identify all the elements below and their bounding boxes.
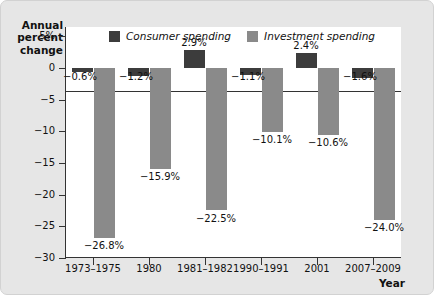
bar-value-label: −0.6%	[63, 71, 97, 82]
legend-label-consumer: Consumer spending	[126, 30, 231, 42]
x-tick-label: 2001	[304, 263, 329, 274]
y-axis-tick-labels: 5%0−5−10−15−20−25−30	[1, 27, 59, 258]
bar-value-label: −1.2%	[119, 71, 153, 82]
y-tick	[59, 163, 66, 164]
y-tick	[59, 100, 66, 101]
bar-value-label: −24.0%	[364, 222, 404, 233]
x-tick-label: 1980	[136, 263, 161, 274]
legend-swatch-investment	[247, 31, 258, 42]
y-tick-label: −30	[34, 253, 55, 263]
bar-value-label: −22.5%	[196, 213, 236, 224]
x-axis-tick-labels: 1973–197519801981–19821990–199120012007–…	[65, 263, 401, 277]
bar	[296, 53, 317, 68]
x-tick-label: 1973–1975	[65, 263, 121, 274]
bar	[374, 68, 395, 220]
bar-value-label: −15.9%	[140, 171, 180, 182]
bar-value-label: −10.1%	[252, 134, 292, 145]
y-tick-label: −20	[34, 190, 55, 200]
bar	[94, 68, 115, 238]
legend-swatch-consumer	[109, 31, 120, 42]
x-tick-label: 1981–1982	[177, 263, 233, 274]
y-tick-label: −15	[34, 158, 55, 168]
bar-value-label: −1.1%	[231, 71, 265, 82]
plot-area: −0.6%−1.2%2.9%−1.1%2.4%−1.6%−26.8%−15.9%…	[65, 27, 401, 258]
chart-figure: Annual percent change 5%0−5−10−15−20−25−…	[0, 0, 434, 295]
y-tick	[59, 68, 66, 69]
legend-label-investment: Investment spending	[264, 30, 375, 42]
y-tick	[59, 258, 66, 259]
bar	[184, 50, 205, 68]
bar	[150, 68, 171, 169]
x-tick-label: 2007–2009	[345, 263, 401, 274]
x-tick-label: 1990–1991	[233, 263, 289, 274]
bar	[318, 68, 339, 135]
y-tick	[59, 36, 66, 37]
y-tick-label: −25	[34, 221, 55, 231]
bar-value-label: −1.6%	[343, 71, 377, 82]
bar	[262, 68, 283, 132]
y-tick-label: −5	[40, 95, 55, 105]
y-tick-label: 0	[49, 63, 55, 73]
bar-value-label: −10.6%	[308, 137, 348, 148]
x-axis-title: Year	[379, 277, 405, 289]
bar	[206, 68, 227, 210]
x-axis-line	[65, 257, 401, 258]
y-tick	[59, 195, 66, 196]
y-tick	[59, 226, 66, 227]
zero-baseline	[65, 91, 401, 92]
chart-legend: Consumer spendingInvestment spending	[109, 27, 385, 45]
bar-value-label: −26.8%	[84, 240, 124, 251]
y-axis-line	[65, 27, 66, 258]
y-tick	[59, 131, 66, 132]
y-tick-label: −10	[34, 126, 55, 136]
y-tick-label: 5%	[39, 31, 55, 41]
